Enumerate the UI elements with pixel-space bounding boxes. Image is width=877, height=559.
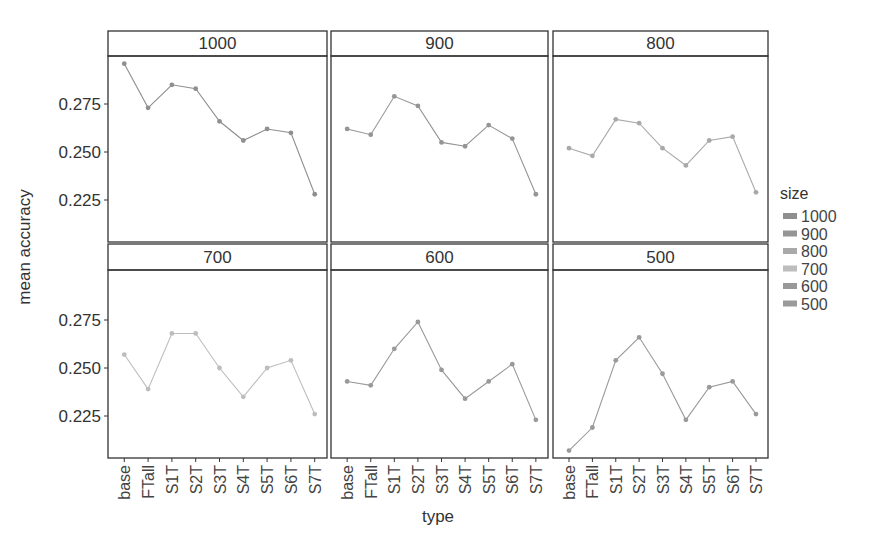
- data-point: [169, 82, 174, 87]
- data-point: [146, 387, 151, 392]
- data-point: [312, 412, 317, 417]
- data-point: [122, 61, 127, 66]
- x-tick-label: S3T: [212, 465, 229, 495]
- x-tick-label: S2T: [410, 465, 427, 495]
- x-tick-label: S6T: [725, 465, 742, 495]
- x-tick-label: S6T: [283, 465, 300, 495]
- data-point: [241, 138, 246, 143]
- facet-panel-700: 700: [108, 244, 327, 458]
- panel-border: [108, 270, 327, 458]
- data-point: [439, 368, 444, 373]
- data-point: [265, 127, 270, 132]
- data-point: [169, 331, 174, 336]
- x-tick-label: S3T: [434, 465, 451, 495]
- x-tick-label: base: [339, 465, 356, 500]
- legend-swatch: [783, 213, 797, 219]
- data-point: [707, 138, 712, 143]
- x-tick-label: S3T: [655, 465, 672, 495]
- legend-label: 500: [801, 296, 828, 313]
- x-tick-label: S2T: [188, 465, 205, 495]
- legend-item-900: 900: [783, 226, 828, 243]
- facet-panel-600: 600: [331, 244, 548, 458]
- data-point: [567, 146, 572, 151]
- x-tick-label: S4T: [457, 465, 474, 495]
- y-tick-label: 0.225: [58, 191, 101, 210]
- x-tick-label: S1T: [608, 465, 625, 495]
- data-point: [416, 104, 421, 109]
- x-tick-label: S1T: [164, 465, 181, 495]
- series-line-700: [124, 333, 314, 414]
- data-point: [265, 366, 270, 371]
- data-point: [637, 121, 642, 126]
- x-tick-label: S6T: [504, 465, 521, 495]
- data-point: [683, 417, 688, 422]
- data-point: [463, 144, 468, 149]
- facet-strip-label: 500: [646, 248, 674, 267]
- data-point: [463, 396, 468, 401]
- legend-swatch: [783, 283, 797, 289]
- legend-item-600: 600: [783, 278, 828, 295]
- data-point: [533, 192, 538, 197]
- data-point: [439, 140, 444, 145]
- x-tick-label: base: [116, 465, 133, 500]
- data-point: [754, 190, 759, 195]
- legend-item-1000: 1000: [783, 208, 837, 225]
- data-point: [486, 379, 491, 384]
- data-point: [217, 366, 222, 371]
- legend-label: 700: [801, 261, 828, 278]
- legend-item-700: 700: [783, 261, 828, 278]
- series-line-1000: [124, 64, 314, 195]
- facet-panel-500: 500: [553, 244, 768, 458]
- y-tick-label: 0.275: [58, 95, 101, 114]
- x-tick-label: S2T: [631, 465, 648, 495]
- data-point: [613, 358, 618, 363]
- panel-border: [331, 56, 548, 242]
- facet-panel-1000: 1000: [108, 31, 327, 242]
- x-axis-title: type: [422, 507, 454, 526]
- facet-strip-label: 900: [425, 34, 453, 53]
- data-point: [368, 132, 373, 137]
- facet-strip-label: 800: [646, 34, 674, 53]
- x-tick-label: FTall: [140, 465, 157, 499]
- series-line-500: [569, 337, 756, 450]
- y-tick-label: 0.275: [58, 311, 101, 330]
- data-point: [486, 123, 491, 128]
- data-point: [368, 383, 373, 388]
- x-axes: baseFTallS1TS2TS3TS4TS5TS6TS7TbaseFTallS…: [116, 458, 765, 500]
- data-point: [683, 163, 688, 168]
- legend-label: 1000: [801, 208, 837, 225]
- data-point: [241, 394, 246, 399]
- legend-swatch: [783, 266, 797, 272]
- data-point: [590, 153, 595, 158]
- legend-item-800: 800: [783, 243, 828, 260]
- x-tick-label: S7T: [748, 465, 765, 495]
- legend-swatch: [783, 248, 797, 254]
- data-point: [217, 119, 222, 124]
- legend-swatch: [783, 301, 797, 307]
- x-tick-label: S7T: [528, 465, 545, 495]
- legend-title: size: [780, 185, 809, 202]
- y-axes: 0.2250.2500.2750.2250.2500.275: [58, 95, 108, 426]
- series-line-900: [347, 96, 536, 194]
- data-point: [637, 335, 642, 340]
- series-line-800: [569, 119, 756, 192]
- data-point: [416, 320, 421, 325]
- facet-panel-900: 900: [331, 31, 548, 242]
- legend-label: 800: [801, 243, 828, 260]
- x-tick-label: FTall: [584, 465, 601, 499]
- data-point: [289, 130, 294, 135]
- facet-panels: 1000900800700600500: [108, 31, 768, 458]
- data-point: [312, 192, 317, 197]
- y-tick-label: 0.250: [58, 143, 101, 162]
- legend-swatch: [783, 231, 797, 237]
- x-tick-label: S4T: [235, 465, 252, 495]
- legend-item-500: 500: [783, 296, 828, 313]
- facet-strip-label: 1000: [199, 34, 237, 53]
- y-axis-title: mean accuracy: [15, 189, 34, 305]
- data-point: [730, 379, 735, 384]
- data-point: [193, 86, 198, 91]
- x-tick-label: S4T: [678, 465, 695, 495]
- x-tick-label: S5T: [481, 465, 498, 495]
- legend-label: 900: [801, 226, 828, 243]
- data-point: [533, 417, 538, 422]
